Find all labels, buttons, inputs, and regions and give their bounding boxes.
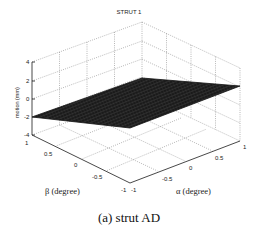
- beta-tick-1: 1: [25, 140, 28, 146]
- alpha-tick-0: 0: [189, 165, 192, 171]
- beta-tick-0.5: 0.5: [44, 151, 52, 157]
- z-tick-neg4: -4: [24, 132, 29, 138]
- beta-axis-label: β (degree): [45, 186, 80, 196]
- z-tick-0: 0: [26, 96, 29, 102]
- alpha-axis-label: α (degree): [176, 186, 211, 196]
- surface-plot: [0, 0, 258, 237]
- beta-tick-0: 0: [74, 162, 77, 168]
- motion-surface: [32, 78, 240, 128]
- z-tick-2: 2: [26, 78, 29, 84]
- figure: STRUT 1 4 2 0 -2 -4 motion (mm) 1 0.5 0 …: [0, 0, 258, 237]
- alpha-tick-neg0.5: -0.5: [162, 176, 172, 182]
- beta-tick-neg0.5: -0.5: [92, 174, 102, 180]
- z-axis-label: motion (mm): [14, 87, 20, 118]
- alpha-tick-neg1: -1: [131, 187, 136, 193]
- chart-title: STRUT 1: [0, 9, 258, 15]
- alpha-tick-1: 1: [243, 144, 246, 150]
- figure-caption: (a) strut AD: [0, 210, 258, 226]
- z-tick-neg2: -2: [24, 114, 29, 120]
- z-tick-4: 4: [26, 59, 29, 65]
- alpha-tick-0.5: 0.5: [215, 155, 223, 161]
- beta-tick-neg1: -1: [121, 187, 126, 193]
